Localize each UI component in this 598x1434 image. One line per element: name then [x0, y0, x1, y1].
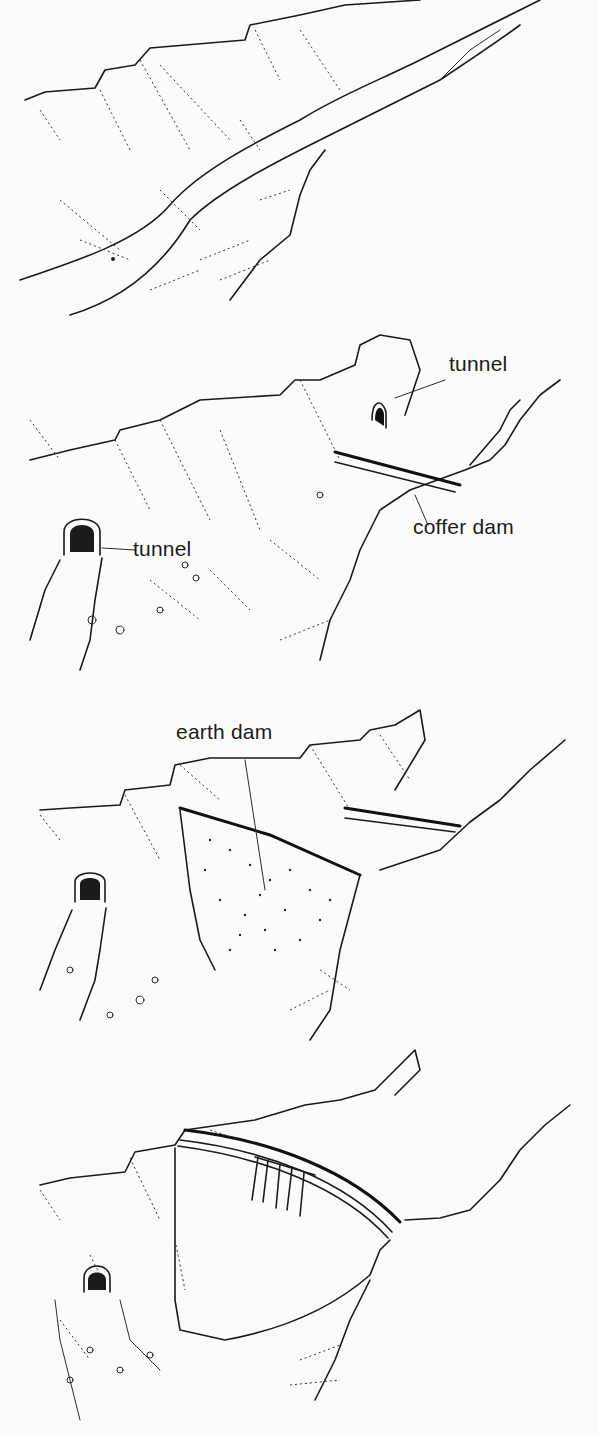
diversion-drawing: [0, 320, 598, 690]
earth-dam-label: earth dam: [176, 720, 272, 744]
stage-2-diversion: tunnel coffer dam tunnel: [0, 320, 598, 690]
tunnel-upstream-label: tunnel: [449, 352, 507, 376]
tunnel-downstream-label: tunnel: [133, 537, 191, 561]
stage-3-earth-dam: earth dam: [0, 650, 598, 1050]
stage-4-completed-dam: [0, 1040, 598, 1434]
stage-1-natural-valley: [0, 0, 598, 330]
coffer-dam-label: coffer dam: [413, 515, 514, 539]
completed-dam-drawing: [0, 1040, 598, 1434]
valley-drawing: [0, 0, 598, 330]
earth-dam-drawing: [0, 650, 598, 1050]
